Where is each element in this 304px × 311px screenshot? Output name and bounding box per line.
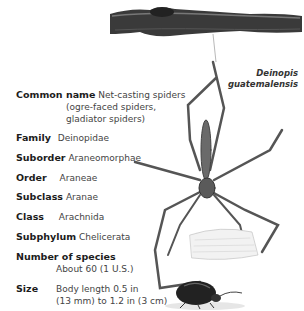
- fact-value: About 60 (1 U.S.): [56, 264, 133, 274]
- fact-number-of-species: Number of species: [16, 251, 116, 264]
- fact-order: Order Araneae: [16, 172, 97, 185]
- species-genus: Deinopis: [228, 68, 298, 79]
- fact-size: Size: [16, 283, 38, 296]
- fact-label: Order: [16, 172, 47, 183]
- fact-value: Arachnida: [59, 212, 104, 222]
- fact-common-name-line3: gladiator spiders): [66, 113, 145, 126]
- fact-label: Subclass: [16, 191, 63, 202]
- species-epithet: guatemalensis: [228, 79, 298, 90]
- fact-value: Body length 0.5 in: [56, 284, 139, 294]
- fact-family: Family Deinopidae: [16, 132, 109, 145]
- fact-subphylum: Subphylum Chelicerata: [16, 231, 130, 244]
- fact-label: Size: [16, 283, 38, 294]
- branch-illustration: [110, 7, 302, 36]
- fact-value: (13 mm) to 1.2 in (3 cm): [56, 296, 167, 306]
- fact-number-of-species-value: About 60 (1 U.S.): [56, 263, 133, 276]
- fact-value: Araneomorphae: [68, 153, 141, 163]
- fact-subclass: Subclass Aranae: [16, 191, 98, 204]
- fact-size-line1: Body length 0.5 in: [56, 283, 139, 296]
- fact-size-line2: (13 mm) to 1.2 in (3 cm): [56, 295, 167, 308]
- fact-common-name: Common name Net-casting spiders: [16, 89, 185, 102]
- fact-value: Net-casting spiders: [98, 90, 185, 100]
- fact-value: Deinopidae: [58, 133, 109, 143]
- fact-value: Chelicerata: [79, 232, 130, 242]
- fact-label: Class: [16, 211, 44, 222]
- fact-suborder: Suborder Araneomorphae: [16, 152, 141, 165]
- fact-label: Subphylum: [16, 231, 76, 242]
- fact-value: (ogre-faced spiders,: [66, 102, 156, 112]
- fact-class: Class Arachnida: [16, 211, 104, 224]
- fact-value: gladiator spiders): [66, 114, 145, 124]
- fact-label: Suborder: [16, 152, 66, 163]
- fact-value: Araneae: [60, 173, 98, 183]
- fact-label: Family: [16, 132, 51, 143]
- fact-label: Common name: [16, 89, 95, 100]
- fact-label: Number of species: [16, 251, 116, 262]
- species-label: Deinopis guatemalensis: [228, 68, 298, 90]
- fact-value: Aranae: [66, 192, 98, 202]
- fact-common-name-line2: (ogre-faced spiders,: [66, 101, 156, 114]
